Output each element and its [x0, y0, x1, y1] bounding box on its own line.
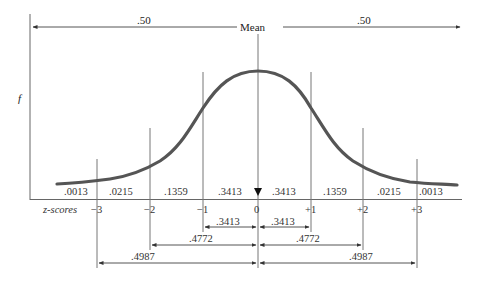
svg-text:.4772: .4772: [189, 233, 213, 244]
svg-text:.1359: .1359: [323, 186, 347, 197]
svg-text:.1359: .1359: [164, 186, 188, 197]
right-half-area: .50: [357, 14, 371, 26]
svg-text:0: 0: [254, 204, 259, 215]
mean-arrow-icon: [254, 188, 262, 196]
svg-text:+1: +1: [305, 204, 316, 215]
svg-text:.3413: .3413: [218, 186, 242, 197]
svg-text:−3: −3: [91, 204, 102, 215]
svg-text:.4987: .4987: [131, 251, 155, 262]
x-axis-label: z-scores: [42, 204, 77, 215]
svg-text:.0215: .0215: [377, 186, 401, 197]
svg-text:−2: −2: [144, 204, 155, 215]
svg-text:.0215: .0215: [109, 186, 133, 197]
normal-curve: [57, 71, 457, 185]
svg-text:.4987: .4987: [349, 251, 373, 262]
svg-text:+2: +2: [357, 204, 368, 215]
svg-text:+3: +3: [411, 204, 422, 215]
svg-text:.0013: .0013: [64, 186, 88, 197]
svg-text:.4772: .4772: [296, 233, 320, 244]
cumulative-span-labels: .3413 .3413 .4772 .4772 .4987 .4987: [131, 216, 373, 262]
segment-area-labels: .0013 .0215 .1359 .3413 .3413 .1359 .021…: [64, 186, 443, 197]
z-tick-labels: −3 −2 −1 0 +1 +2 +3: [91, 204, 422, 215]
z-gridlines: [97, 34, 417, 268]
left-half-area: .50: [137, 14, 151, 26]
normal-curve-diagram: Mean .50 .50 f .0013 .0215 .1359 .3413 .…: [0, 0, 479, 283]
svg-text:.3413: .3413: [216, 216, 240, 227]
mean-label: Mean: [240, 21, 266, 33]
y-axis-label: f: [18, 92, 23, 104]
svg-text:−1: −1: [197, 204, 208, 215]
svg-text:.3413: .3413: [271, 216, 295, 227]
svg-text:.0013: .0013: [419, 186, 443, 197]
svg-text:.3413: .3413: [272, 186, 296, 197]
